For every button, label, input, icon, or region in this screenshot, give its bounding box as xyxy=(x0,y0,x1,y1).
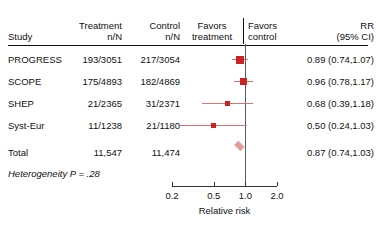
cell-rr: 0.68 (0.39,1.18) xyxy=(286,98,374,109)
table-row: Syst-Eur xyxy=(8,120,44,131)
cell-treatment: 21/2365 xyxy=(60,98,122,109)
x-axis-tick xyxy=(245,182,246,186)
cell-control-total: 11,474 xyxy=(124,147,180,158)
confidence-interval-line xyxy=(180,125,246,126)
x-axis-tick-label: 0.2 xyxy=(157,190,187,201)
cell-treatment: 175/4893 xyxy=(60,76,122,87)
cell-rr: 0.89 (0.74,1.07) xyxy=(286,54,374,65)
cell-control: 31/2371 xyxy=(124,98,180,109)
x-axis-tick xyxy=(214,182,215,186)
table-row: SCOPE xyxy=(8,76,41,87)
column-header-treatment-line2: n/N xyxy=(58,31,122,42)
header-rule xyxy=(8,45,368,46)
table-row: SHEP xyxy=(8,98,34,109)
cell-control: 21/1180 xyxy=(124,120,180,131)
cell-treatment: 193/3051 xyxy=(60,54,122,65)
column-header-favors-treatment-line2: treatment xyxy=(183,31,241,42)
cell-rr: 0.96 (0.78,1.17) xyxy=(286,76,374,87)
x-axis-title: Relative risk xyxy=(132,205,317,216)
header-divider xyxy=(243,18,244,44)
summary-diamond xyxy=(234,141,244,151)
effect-estimate-marker xyxy=(240,78,248,86)
null-effect-line xyxy=(245,44,246,186)
column-header-favors-control-line2: control xyxy=(248,31,277,42)
cell-control: 182/4869 xyxy=(124,76,180,87)
table-row: PROGRESS xyxy=(8,54,62,65)
x-axis-line xyxy=(172,186,277,187)
cell-rr-total: 0.87 (0.74,1.03) xyxy=(286,147,374,158)
cell-treatment-total: 11,547 xyxy=(60,147,122,158)
confidence-interval-line xyxy=(232,59,249,60)
table-row-total: Total xyxy=(8,147,28,158)
confidence-interval-line xyxy=(234,81,252,82)
forest-plot: Study Treatment n/N Control n/N Favors t… xyxy=(0,0,376,236)
x-axis-tick xyxy=(277,182,278,186)
confidence-interval-line xyxy=(202,103,252,104)
column-header-favors-control-line1: Favors xyxy=(248,20,277,31)
column-header-favors-treatment-line1: Favors xyxy=(183,20,241,31)
x-axis-tick-label: 2.0 xyxy=(262,190,292,201)
column-header-rr-line2: (95% CI) xyxy=(286,31,374,42)
cell-treatment: 11/1238 xyxy=(60,120,122,131)
column-header-rr-line1: RR xyxy=(286,20,374,31)
column-header-control-line2: n/N xyxy=(124,31,180,42)
column-header-study: Study xyxy=(8,31,32,42)
column-header-treatment-line1: Treatment xyxy=(58,20,122,31)
cell-control: 217/3054 xyxy=(124,54,180,65)
heterogeneity-text: Heterogeneity P = .28 xyxy=(8,168,100,179)
effect-estimate-marker xyxy=(236,56,244,64)
effect-estimate-marker xyxy=(211,123,216,128)
x-axis-tick xyxy=(172,182,173,186)
effect-estimate-marker xyxy=(225,101,230,106)
column-header-control-line1: Control xyxy=(124,20,180,31)
x-axis-tick-label: 0.5 xyxy=(199,190,229,201)
x-axis-tick-label: 1.0 xyxy=(230,190,260,201)
cell-rr: 0.50 (0.24,1.03) xyxy=(286,120,374,131)
